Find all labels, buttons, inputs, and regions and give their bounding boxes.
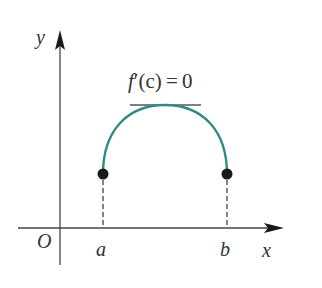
point-a: [98, 169, 109, 180]
tangent-label: f′(c) = 0: [128, 69, 193, 93]
point-b-label: b: [220, 238, 230, 260]
origin-label: O: [37, 230, 51, 252]
diagram-canvas: y x O a b f′(c) = 0: [0, 0, 322, 288]
tangent-label-rest: ′(c) = 0: [134, 69, 193, 93]
y-axis-label: y: [34, 26, 45, 49]
x-axis-label: x: [261, 239, 271, 261]
point-b: [222, 169, 233, 180]
rolle-theorem-diagram: y x O a b f′(c) = 0: [0, 0, 322, 288]
point-a-label: a: [96, 238, 106, 260]
curve: [103, 105, 227, 174]
